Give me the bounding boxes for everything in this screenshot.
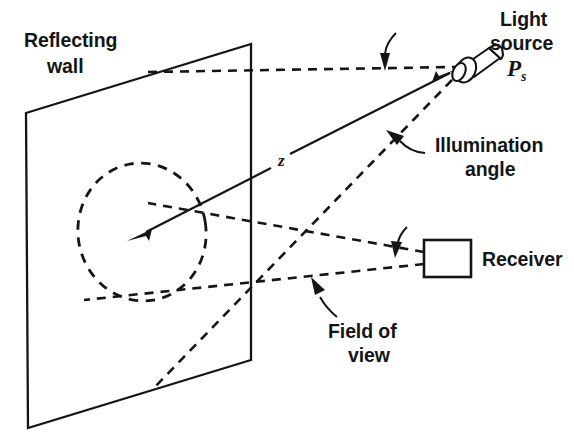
field-of-view-label-line2: view [348,344,391,366]
range-arrow-lower-segment [146,168,271,232]
horizontal-reference-line [148,67,455,72]
field-of-view-label-line1: Field of [328,320,397,342]
label-light-source: Light source P s [490,8,554,84]
label-illumination-angle: Illumination angle [435,134,543,180]
light-source-label-line1: Light [500,8,548,30]
range-arrow-upper-segment [290,73,450,154]
light-source-subscript-s: s [520,69,527,84]
illumination-angle-label-line2: angle [465,158,516,180]
field-of-view-lower-dashed-ray [84,264,424,300]
receiver-label: Receiver [482,248,563,270]
receiver-unit [424,240,471,277]
distance-symbol-z: z [277,151,285,170]
reflecting-wall-label-line2: wall [46,55,83,77]
light-source-label-line2: source [490,32,554,54]
reflecting-wall-label-line1: Reflecting [24,29,117,51]
illumination-ray [152,80,452,390]
horizontal-dashed-reference-line [148,67,455,72]
range-vector-z: z [127,69,457,241]
receiver-box [424,240,471,277]
diagram-canvas: z [0,0,574,440]
range-arrow-head [127,229,152,241]
field-of-view-lower-pointer [311,277,337,317]
incidence-angle-pointer-curve [385,33,396,54]
illumination-dashed-ray [152,80,452,390]
incidence-angle-pointer [380,33,396,71]
illumination-angle-pointer-curve [400,141,425,153]
light-source-symbol-P: P [506,56,522,81]
field-of-view-upper-pointer-head [391,241,402,258]
illumination-angle-label-line1: Illumination [435,134,543,156]
illumination-spot-ellipse [68,154,216,310]
label-reflecting-wall: Reflecting wall [24,29,117,77]
field-of-view-upper-pointer [391,227,407,258]
label-field-of-view: Field of view [328,320,397,366]
label-receiver: Receiver [482,248,563,270]
field-of-view-upper-pointer-curve [398,227,407,242]
field-of-view-rays [84,203,424,300]
dashed-ellipse-outline [68,154,216,310]
field-of-view-lower-pointer-head [311,277,325,295]
field-of-view-lower-pointer-curve [320,297,337,317]
optical-geometry-diagram: z [0,0,574,440]
